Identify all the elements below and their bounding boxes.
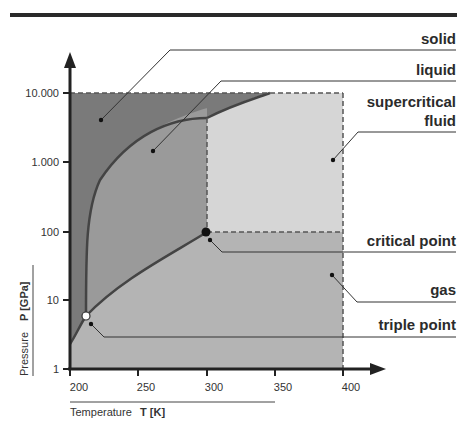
label-critical-point: critical point <box>367 232 456 249</box>
y-tick-10000: 10.000 <box>25 87 59 99</box>
x-tick-250: 250 <box>137 381 155 393</box>
critical-point-marker <box>202 228 211 237</box>
label-liquid: liquid <box>416 61 456 78</box>
label-triple-point: triple point <box>379 316 457 333</box>
x-tick-200: 200 <box>70 381 88 393</box>
y-tick-1: 1 <box>53 363 59 375</box>
y-tick-10: 10 <box>47 294 59 306</box>
triple-point-marker <box>82 312 90 320</box>
y-axis-name: Pressure <box>18 332 30 376</box>
y-axis-arrow-icon <box>64 52 76 68</box>
label-supercritical: supercritical <box>367 93 456 110</box>
y-tick-100: 100 <box>41 226 59 238</box>
x-axis-symbol: T [K] <box>140 406 165 418</box>
label-fluid: fluid <box>424 112 456 129</box>
x-axis-arrow-icon <box>370 363 386 375</box>
y-tick-1000: 1.000 <box>31 156 59 168</box>
x-tick-400: 400 <box>342 381 360 393</box>
x-axis-name: Temperature <box>70 406 132 418</box>
phase-diagram: 10.000 1.000 100 10 1 200 250 300 350 40… <box>0 0 476 428</box>
x-tick-350: 350 <box>274 381 292 393</box>
y-axis-symbol: P [GPa] <box>18 281 30 321</box>
x-tick-300: 300 <box>205 381 223 393</box>
label-gas: gas <box>430 281 456 298</box>
supercritical-region <box>207 93 343 232</box>
label-solid: solid <box>421 30 456 47</box>
